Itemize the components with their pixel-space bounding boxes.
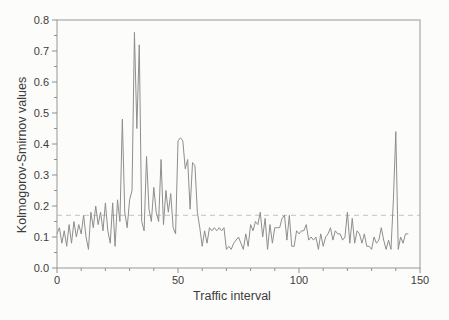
ks-line-chart: 0.00.10.20.30.40.50.60.70.8050100150 Tra…	[0, 0, 449, 320]
axis-tick-labels: 0.00.10.20.30.40.50.60.70.8050100150	[34, 14, 429, 286]
svg-text:0.8: 0.8	[34, 14, 49, 26]
svg-text:0.0: 0.0	[34, 262, 49, 274]
svg-text:0.7: 0.7	[34, 45, 49, 57]
svg-text:0.1: 0.1	[34, 231, 49, 243]
svg-text:0: 0	[54, 274, 60, 286]
svg-text:0.4: 0.4	[34, 138, 49, 150]
svg-text:100: 100	[290, 274, 308, 286]
ks-values-series-line	[57, 32, 408, 249]
y-axis-title: Kolmogorov-Smirnov values	[15, 77, 29, 233]
svg-text:0.2: 0.2	[34, 200, 49, 212]
x-axis-title: Traffic interval	[193, 289, 271, 303]
svg-text:50: 50	[172, 274, 184, 286]
svg-text:150: 150	[411, 274, 429, 286]
svg-text:0.3: 0.3	[34, 169, 49, 181]
ks-statistic-figure: 0.00.10.20.30.40.50.60.70.8050100150 Tra…	[0, 0, 449, 320]
svg-text:0.5: 0.5	[34, 107, 49, 119]
svg-text:0.6: 0.6	[34, 76, 49, 88]
